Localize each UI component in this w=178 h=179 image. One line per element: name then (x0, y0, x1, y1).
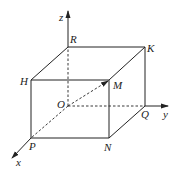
edge-OP (31, 106, 68, 138)
edge-KM (109, 47, 145, 80)
edge-RH (31, 47, 68, 80)
point-label-P: P (29, 141, 36, 152)
point-label-K: K (147, 43, 154, 54)
z-axis-label: z (59, 12, 63, 23)
diagram-canvas (0, 0, 178, 179)
y-axis-label: y (163, 109, 168, 120)
point-label-R: R (70, 34, 77, 45)
edge-NQ (109, 106, 145, 138)
vector-OM (68, 81, 108, 106)
point-label-N: N (104, 142, 111, 153)
point-label-M: M (113, 80, 122, 91)
cuboid-diagram: z y x R K H M O Q P N (0, 0, 178, 179)
point-label-Q: Q (141, 109, 149, 120)
point-label-O: O (57, 99, 65, 110)
point-label-H: H (20, 76, 28, 87)
x-axis-label: x (16, 157, 21, 168)
